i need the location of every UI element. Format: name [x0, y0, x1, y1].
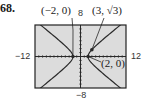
- x-min-label: −12: [15, 52, 30, 61]
- right-vertex-label: (2, 0): [101, 58, 125, 69]
- y-max-label: 8: [78, 9, 83, 18]
- y-min-label: −8: [76, 91, 86, 100]
- x-max-label: 12: [131, 52, 141, 61]
- point-label: (3, √3): [92, 5, 122, 16]
- left-vertex-label: (−2, 0): [41, 5, 71, 16]
- data-point: [86, 55, 90, 59]
